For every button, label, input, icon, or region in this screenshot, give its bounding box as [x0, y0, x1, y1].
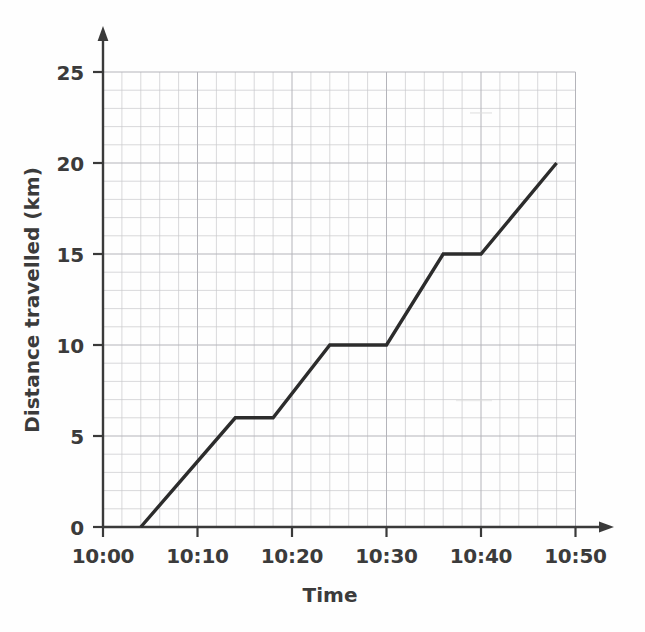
- y-tick-label: 0: [70, 516, 84, 540]
- y-axis-title: Distance travelled (km): [20, 167, 44, 433]
- scan-artifacts: [456, 112, 492, 401]
- chart-canvas: 10:00 10:10 10:20 10:30 10:40 10:50 0 5 …: [0, 0, 645, 632]
- y-tick-label: 15: [57, 243, 84, 267]
- x-tick-label: 10:00: [72, 544, 135, 568]
- y-axis-ticks: [93, 72, 103, 527]
- distance-time-graph-figure: 10:00 10:10 10:20 10:30 10:40 10:50 0 5 …: [0, 0, 645, 632]
- y-axis-arrow-icon: [98, 26, 109, 41]
- grid-major: [103, 72, 576, 527]
- x-tick-label: 10:10: [166, 544, 229, 568]
- y-tick-label: 10: [57, 334, 84, 358]
- x-axis-title: Time: [303, 583, 358, 607]
- x-tick-label: 10:30: [355, 544, 418, 568]
- x-tick-label: 10:20: [261, 544, 324, 568]
- x-axis-ticks: [103, 527, 576, 537]
- y-axis-tick-labels: 0 5 10 15 20 25: [57, 61, 84, 540]
- grid-minor-horizontal: [103, 90, 576, 509]
- x-tick-label: 10:40: [450, 544, 513, 568]
- axis-x: [103, 522, 614, 533]
- grid-minor-vertical: [103, 72, 557, 527]
- y-tick-label: 25: [57, 61, 84, 85]
- y-tick-label: 20: [57, 152, 84, 176]
- x-axis-arrow-icon: [599, 522, 614, 533]
- x-tick-label: 10:50: [544, 544, 607, 568]
- x-axis-tick-labels: 10:00 10:10 10:20 10:30 10:40 10:50: [72, 544, 607, 568]
- y-tick-label: 5: [70, 425, 84, 449]
- axis-y: [98, 26, 109, 527]
